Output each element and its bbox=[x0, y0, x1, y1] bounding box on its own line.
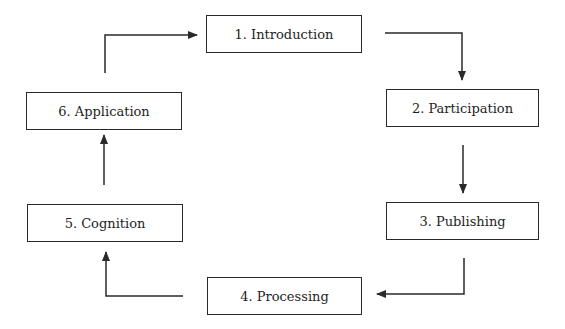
step-label: 4. Processing bbox=[240, 289, 329, 304]
step-participation: 2. Participation bbox=[386, 89, 539, 127]
arrow-processing-to-cognition bbox=[106, 252, 183, 296]
step-processing: 4. Processing bbox=[207, 277, 362, 315]
arrow-introduction-to-participation bbox=[385, 33, 462, 80]
step-label: 6. Application bbox=[58, 104, 150, 119]
step-cognition: 5. Cognition bbox=[27, 204, 183, 242]
step-label: 3. Publishing bbox=[419, 214, 505, 229]
step-application: 6. Application bbox=[26, 92, 182, 130]
arrow-publishing-to-processing bbox=[377, 258, 464, 294]
cycle-diagram: 1. Introduction 2. Participation 3. Publ… bbox=[0, 0, 565, 329]
step-label: 2. Participation bbox=[412, 101, 513, 116]
step-label: 1. Introduction bbox=[235, 27, 334, 42]
arrow-application-to-introduction bbox=[105, 35, 197, 73]
step-introduction: 1. Introduction bbox=[206, 15, 362, 53]
step-publishing: 3. Publishing bbox=[386, 202, 539, 240]
step-label: 5. Cognition bbox=[65, 216, 146, 231]
